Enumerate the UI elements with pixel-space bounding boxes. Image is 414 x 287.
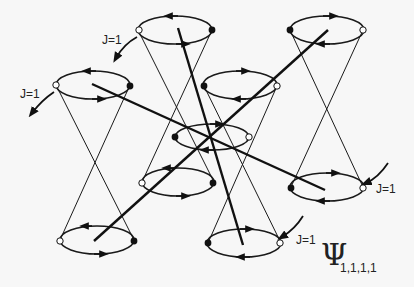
open-dot-icon [246, 134, 252, 140]
psi-subscript: 1,1,1,1 [340, 261, 377, 275]
ring-cl-bottom [142, 168, 214, 196]
open-dot-icon [274, 83, 280, 89]
double-cone-right [287, 16, 367, 201]
open-dot-icon [57, 238, 63, 244]
ring-r-bottom [290, 173, 364, 201]
open-dot-icon [136, 27, 142, 33]
label-j1-a: J=1 [102, 33, 122, 47]
filled-dot-icon [201, 83, 208, 90]
filled-dot-icon [287, 27, 294, 34]
axis-line [94, 30, 328, 241]
label-j1-b: J=1 [20, 87, 40, 101]
coupling-axes [92, 28, 328, 245]
open-dot-icon [277, 240, 283, 246]
ring-cl-top [138, 16, 212, 44]
ring-c-bottom [207, 229, 281, 257]
open-dot-icon [53, 82, 59, 88]
label-j1-d: J=1 [296, 233, 316, 247]
filled-dot-icon [131, 238, 138, 245]
filled-dot-icon [288, 185, 295, 192]
filled-dot-icon [172, 134, 179, 141]
filled-dot-icon [210, 180, 217, 187]
filled-dot-icon [205, 240, 212, 247]
filled-dot-icon [127, 83, 134, 90]
label-j1-c: J=1 [376, 182, 396, 196]
double-cone-center-left [136, 16, 217, 196]
curved-arrow-icon [366, 163, 388, 183]
double-cone-center [201, 71, 284, 257]
j-coupling-diagram: J=1 J=1 J=1 J=1 Ψ 1,1,1,1 [0, 0, 414, 287]
open-dot-icon [360, 27, 366, 33]
filled-dot-icon [209, 27, 216, 34]
open-dot-icon [139, 180, 145, 186]
open-dot-icon [360, 185, 366, 191]
ring-left-bottom [60, 226, 134, 254]
